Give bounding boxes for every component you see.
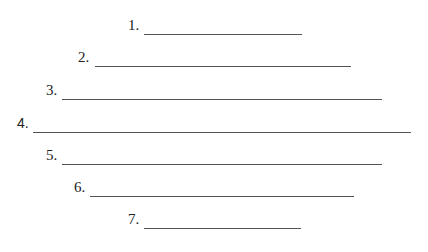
list-item: 7. bbox=[0, 209, 428, 229]
list-item: 2. bbox=[0, 47, 428, 67]
item-number: 7. bbox=[128, 212, 139, 227]
list-item: 6. bbox=[0, 177, 428, 197]
item-number: 3. bbox=[46, 83, 57, 98]
answer-blank-line[interactable] bbox=[144, 228, 301, 229]
item-number: 4. bbox=[17, 116, 29, 131]
answer-blank-line[interactable] bbox=[95, 66, 351, 67]
item-number: 1. bbox=[128, 18, 139, 33]
list-item: 4. bbox=[0, 113, 428, 133]
answer-blank-line[interactable] bbox=[62, 164, 382, 165]
item-number: 2. bbox=[78, 50, 89, 65]
item-number: 5. bbox=[46, 148, 57, 163]
list-item: 3. bbox=[0, 80, 428, 100]
answer-blank-line[interactable] bbox=[33, 132, 411, 133]
item-number: 6. bbox=[74, 180, 85, 195]
answer-blank-line[interactable] bbox=[90, 196, 354, 197]
list-item: 5. bbox=[0, 145, 428, 165]
list-item: 1. bbox=[0, 15, 428, 35]
answer-blank-line[interactable] bbox=[144, 34, 302, 35]
answer-blank-line[interactable] bbox=[62, 99, 382, 100]
